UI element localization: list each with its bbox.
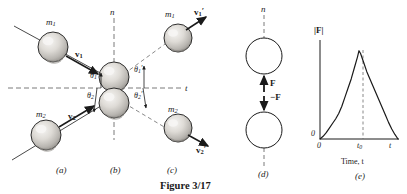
label-theta2: θ2 (87, 92, 94, 101)
sphere-m2-contact (99, 88, 129, 119)
label-force-up: F (270, 79, 276, 88)
v1-prime-arrow (186, 17, 206, 30)
label-v1: v1 (75, 50, 83, 60)
chart-y-axis-label: |F| (314, 26, 323, 35)
figure-caption: Figure 3/17 (160, 180, 211, 191)
label-axis-t: t (185, 84, 188, 93)
label-m1-outgoing: m1 (165, 10, 175, 20)
chart-x-origin-label: 0 (317, 142, 321, 150)
label-theta2-prime: θ2′ (134, 91, 142, 101)
label-v2-prime: v2′ (196, 145, 206, 156)
label-panel-d-axis-n: n (261, 5, 266, 14)
label-theta1: θ1 (90, 72, 97, 81)
sphere-m2-outgoing (164, 114, 192, 142)
v2-arrow (59, 106, 94, 127)
label-axis-n: n (110, 8, 115, 17)
label-m2-outgoing: m2 (168, 105, 178, 115)
theta2-prime-tick (143, 88, 146, 108)
label-force-down: −F (270, 93, 281, 102)
chart-y-origin-label: 0 (311, 130, 315, 138)
panel-d-upper-circle (246, 38, 282, 74)
panel-label-c: (c) (167, 166, 177, 175)
chart-force-curve (320, 51, 398, 139)
label-theta1-prime: θ1′ (134, 65, 142, 75)
chart-x-end-label: t (389, 142, 391, 150)
sphere-m2-incoming (31, 120, 61, 151)
figure-3-17: m1 v1 m2 v2 m1 v1′ m2 v2′ θ1 θ1′ θ2 θ2′ … (0, 0, 407, 194)
panel-label-b: (b) (110, 166, 121, 175)
label-m1-incoming: m1 (46, 18, 56, 28)
label-m2-incoming: m2 (36, 110, 46, 120)
panel-label-e: (e) (355, 172, 365, 181)
label-v1-prime: v1′ (194, 7, 204, 18)
panel-label-a: (a) (56, 166, 67, 175)
chart-x-axis-label: Time, t (341, 158, 364, 166)
chart-x-peak-label: t0 (357, 142, 362, 151)
label-v2: v2 (68, 112, 76, 122)
panel-label-d: (d) (258, 170, 269, 179)
panel-d-lower-circle (246, 112, 282, 148)
sphere-m1-incoming (38, 32, 68, 63)
